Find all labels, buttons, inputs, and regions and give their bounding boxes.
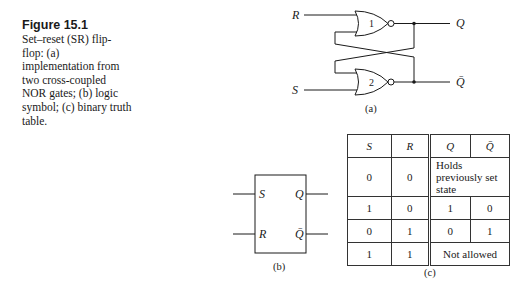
table-row: 1 0 1 0	[348, 197, 510, 220]
pin-r-label: R	[258, 227, 267, 241]
cell-not-allowed: Not allowed	[430, 243, 510, 266]
cell-holds-state: Holds previously set state	[430, 158, 510, 197]
cell-q: 1	[430, 197, 470, 220]
inversion-bubble-2	[388, 79, 394, 85]
gate-2-label: 2	[369, 77, 374, 88]
part-b-label: (b)	[273, 261, 286, 273]
table-row: 1 1 Not allowed	[348, 243, 510, 266]
output-q-label: Q	[456, 16, 465, 30]
cell-qbar: 1	[470, 220, 509, 243]
cell-r: 0	[391, 197, 429, 220]
cell-qbar: 0	[470, 197, 509, 220]
inversion-bubble-1	[388, 21, 394, 27]
junction-dot-q	[412, 22, 416, 26]
header-q: Q	[430, 135, 470, 158]
part-a-label: (a)	[365, 103, 377, 115]
cell-r: 1	[391, 243, 429, 266]
table-header-row: S R Q Q̄	[348, 135, 510, 158]
nor-latch-circuit	[304, 11, 450, 95]
cell-s: 1	[348, 197, 392, 220]
header-qbar: Q̄	[470, 135, 509, 158]
table-row: 0 0 Holds previously set state	[348, 158, 510, 197]
pin-qbar-label: Q̄	[295, 227, 304, 241]
output-qbar-label: Q̄	[456, 75, 465, 89]
pin-s-label: S	[259, 187, 265, 201]
cell-s: 0	[348, 220, 392, 243]
cell-s: 0	[348, 158, 392, 197]
header-s: S	[348, 135, 392, 158]
junction-dot-qbar	[412, 80, 416, 84]
header-r: R	[391, 135, 429, 158]
cell-s: 1	[348, 243, 392, 266]
table-row: 0 1 0 1	[348, 220, 510, 243]
cell-q: 0	[430, 220, 470, 243]
input-s-label: S	[292, 83, 298, 97]
pin-q-label: Q	[295, 187, 304, 201]
sr-logic-symbol	[233, 175, 328, 253]
input-r-label: R	[291, 8, 300, 22]
cell-r: 1	[391, 220, 429, 243]
truth-table: S R Q Q̄ 0 0 Holds previously set state …	[347, 134, 510, 266]
part-c-label: (c)	[424, 267, 436, 279]
gate-1-label: 1	[369, 18, 374, 29]
cell-r: 0	[391, 158, 429, 197]
